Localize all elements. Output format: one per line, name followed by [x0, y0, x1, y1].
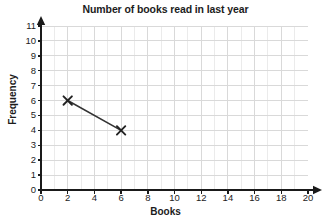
x-tick-label: 6 — [111, 193, 131, 203]
x-tick-label: 20 — [298, 193, 318, 203]
x-tick-label: 12 — [191, 193, 211, 203]
x-tick-label: 4 — [84, 193, 104, 203]
x-axis-title: Books — [0, 206, 331, 217]
x-tick-label: 18 — [271, 193, 291, 203]
x-tick-label: 14 — [218, 193, 238, 203]
x-tick-label: 10 — [165, 193, 185, 203]
x-tick-label: 8 — [138, 193, 158, 203]
x-axis-tick-labels: 02468101214161820 — [0, 0, 331, 221]
chart-container: Number of books read in last year 012345… — [0, 0, 331, 221]
x-tick-label: 2 — [58, 193, 78, 203]
x-tick-label: 16 — [245, 193, 265, 203]
x-tick-label: 0 — [31, 193, 51, 203]
y-axis-title: Frequency — [7, 52, 18, 148]
